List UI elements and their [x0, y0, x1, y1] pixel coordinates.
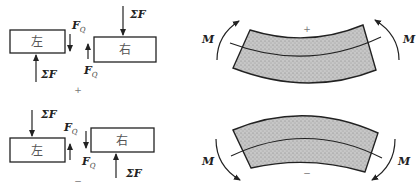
shear-moment-sign-convention-figure: 左 ΣF FQ 右 ΣF FQ + 左 ΣF FQ 右 — [0, 0, 416, 190]
negative-moment-panel: − M M — [201, 116, 411, 180]
negative-sign: − — [74, 176, 82, 186]
shear-force-label: FQ — [83, 64, 98, 79]
moment-arrow-right-icon — [375, 20, 399, 60]
moment-arrow-left-icon — [216, 139, 240, 180]
sum-force-label: ΣF — [125, 167, 143, 180]
curved-beam-segment — [233, 116, 378, 172]
moment-label-left: M — [201, 155, 215, 168]
sum-force-label: ΣF — [40, 68, 58, 81]
moment-label-left: M — [201, 33, 215, 46]
moment-arrow-left-icon — [217, 21, 239, 60]
left-segment-label: 左 — [31, 34, 43, 49]
moment-label-right: M — [402, 33, 416, 46]
shear-force-label: FQ — [81, 155, 96, 170]
moment-arrow-right-icon — [372, 139, 395, 180]
positive-moment-panel: + M M — [201, 20, 416, 83]
positive-shear-panel: 左 ΣF FQ 右 ΣF FQ + — [10, 6, 156, 95]
right-segment-label: 右 — [119, 42, 131, 57]
shear-force-label: FQ — [71, 19, 86, 34]
positive-sign: + — [303, 24, 311, 34]
sum-force-label: ΣF — [40, 108, 58, 121]
negative-shear-panel: 左 ΣF FQ 右 ΣF FQ − — [10, 108, 154, 186]
sum-force-label: ΣF — [129, 8, 147, 21]
right-segment-label: 右 — [116, 133, 128, 148]
negative-sign: − — [303, 168, 311, 178]
left-block: 左 ΣF FQ — [10, 19, 86, 82]
positive-sign: + — [74, 85, 82, 95]
left-block: 左 ΣF FQ — [10, 108, 78, 162]
shear-force-label: FQ — [63, 121, 78, 136]
left-segment-label: 左 — [31, 143, 43, 158]
right-block: 右 ΣF FQ — [81, 128, 154, 180]
right-block: 右 ΣF FQ — [83, 6, 156, 79]
moment-label-right: M — [397, 155, 411, 168]
